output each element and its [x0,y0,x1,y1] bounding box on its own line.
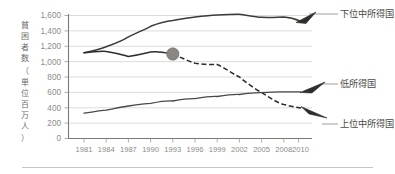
y-tick-label: 0 [56,134,61,143]
series-line-low-income-solid [84,51,173,56]
y-tick-label: 400 [47,104,61,113]
x-tick-label: 1990 [142,145,159,154]
y-axis-title-char: 貧 [21,20,29,30]
x-tick-label: 1987 [120,145,137,154]
y-axis-title-char: 位 [21,88,29,98]
y-tick-label: 600 [47,88,61,97]
y-axis-title: 貧 困 者 数 （ 単 位 百 万 人 ） [21,20,29,143]
series-label-upper-middle-income: 上位中所得国 [340,118,394,129]
x-tick-label: 1996 [187,145,204,154]
y-tick-labels: 1,600 1,400 1,200 1,000 800 600 400 200 … [41,11,62,143]
x-tick-label: 2008 [275,145,292,154]
y-tick-label: 1,600 [41,11,62,20]
x-tick-label: 1993 [164,145,181,154]
series-label-low-income: 低所得国 [340,78,376,89]
y-axis-title-char: 万 [21,111,29,120]
y-axis-title-char: 百 [21,100,29,109]
gridlines [68,16,312,124]
y-tick-label: 200 [47,119,61,128]
x-tick-label: 2005 [253,145,270,154]
y-tick-marks [65,16,69,139]
y-axis-title-char: 困 [21,32,29,41]
y-tick-label: 1,400 [41,27,62,36]
x-tick-labels: 1981 1984 1987 1990 1993 1996 1999 2002 … [76,145,309,154]
y-tick-label: 1,200 [41,42,62,51]
highlight-marker-1993 [167,48,179,60]
series-line-upper-middle-income [84,92,301,113]
x-tick-label: 2002 [231,145,248,154]
y-axis-title-char: 単 [21,77,29,87]
series-line-lower-middle-income [84,14,301,53]
series-line-low-income-dashed [173,54,302,108]
y-tick-label: 800 [47,73,61,82]
series-label-lower-middle-income: 下位中所得国 [340,8,394,19]
annotation-arrowhead-low-income [300,82,325,93]
y-axis-title-char: ） [21,134,29,143]
y-axis-title-char: 数 [21,53,29,63]
y-axis-title-char: 人 [21,122,29,131]
x-tick-label: 1981 [76,145,93,154]
y-axis-title-char: （ [21,67,29,76]
x-tick-label: 2010 [292,145,309,154]
poverty-line-chart-figure: 1,600 1,400 1,200 1,000 800 600 400 200 … [0,0,395,174]
x-tick-marks [84,139,299,143]
x-tick-label: 1984 [98,145,115,154]
y-axis-title-char: 者 [21,43,29,52]
annotation-arrowhead-upper-middle-income [301,107,327,119]
annotation-arrowhead-lower-middle-income [296,12,316,24]
y-tick-label: 1,000 [41,58,62,67]
chart-canvas: 1,600 1,400 1,200 1,000 800 600 400 200 … [0,0,395,174]
x-tick-label: 1999 [209,145,226,154]
